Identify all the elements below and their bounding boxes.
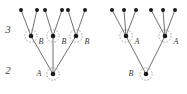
internal-node bbox=[29, 34, 34, 39]
level-labels: 3 2 bbox=[4, 23, 11, 76]
leaf-node bbox=[35, 8, 39, 12]
node-label-b: B bbox=[62, 37, 67, 46]
tree-edge bbox=[146, 36, 165, 74]
leaf-node bbox=[122, 8, 126, 12]
leaf-node bbox=[83, 8, 87, 12]
internal-node bbox=[124, 34, 129, 39]
figure-container: 3 2 BBBA AAB bbox=[0, 0, 187, 94]
tree-edge bbox=[31, 10, 37, 36]
leaf-node bbox=[134, 8, 138, 12]
tree-edge bbox=[53, 10, 62, 36]
right-tree-node-labels: AAB bbox=[129, 37, 179, 78]
tree-diagram-figure: 3 2 BBBA AAB bbox=[0, 0, 187, 94]
node-label-b: B bbox=[129, 69, 134, 78]
leaf-node bbox=[19, 8, 23, 12]
leaf-node bbox=[161, 8, 165, 12]
leaf-node bbox=[60, 8, 64, 12]
right-tree-edges bbox=[112, 10, 175, 74]
tree-edge bbox=[68, 10, 76, 36]
leaf-node bbox=[173, 8, 177, 12]
internal-node bbox=[74, 34, 79, 39]
internal-node bbox=[163, 34, 168, 39]
tree-edge bbox=[45, 10, 53, 36]
node-label-b: B bbox=[85, 37, 90, 46]
node-label-b: B bbox=[39, 37, 44, 46]
tree-edge bbox=[165, 10, 175, 36]
root-node bbox=[144, 72, 149, 77]
level-label-3: 3 bbox=[4, 23, 11, 35]
leaf-node bbox=[110, 8, 114, 12]
tree-edge bbox=[126, 10, 136, 36]
leaf-node bbox=[43, 8, 47, 12]
tree-edge bbox=[76, 10, 85, 36]
node-label-a: A bbox=[173, 37, 179, 46]
level-label-2: 2 bbox=[5, 64, 11, 76]
leaf-node bbox=[149, 8, 153, 12]
node-label-a: A bbox=[36, 69, 42, 78]
leaf-node bbox=[66, 8, 70, 12]
node-label-a: A bbox=[134, 37, 140, 46]
internal-node bbox=[51, 34, 56, 39]
root-node bbox=[51, 72, 56, 77]
